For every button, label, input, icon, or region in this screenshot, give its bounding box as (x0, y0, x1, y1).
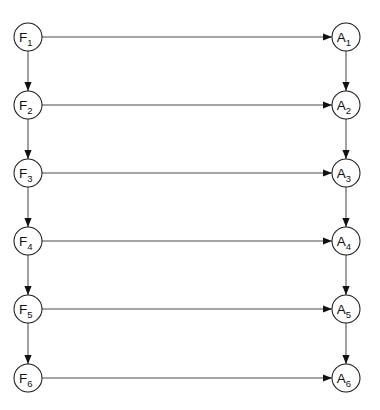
node-f1[interactable]: F1 (14, 23, 42, 51)
node-subscript-f3: 3 (27, 172, 32, 183)
node-subscript-a5: 5 (346, 308, 351, 319)
node-f2[interactable]: F2 (14, 91, 42, 119)
edge-layer (24, 33, 349, 381)
node-f4[interactable]: F4 (14, 227, 42, 255)
arrowhead-a1-to-a2 (342, 82, 349, 91)
node-a1[interactable]: A1 (332, 23, 360, 51)
node-f3[interactable]: F3 (14, 159, 42, 187)
arrowhead-f5-to-f6 (24, 355, 31, 364)
node-a2[interactable]: A2 (332, 91, 360, 119)
node-subscript-f1: 1 (27, 36, 32, 47)
arrowhead-f1-to-f2 (24, 82, 31, 91)
arrowhead-f2-to-f3 (24, 150, 31, 159)
arrowhead-f3-to-f4 (24, 218, 31, 227)
node-subscript-f6: 6 (27, 377, 32, 388)
node-a4[interactable]: A4 (332, 227, 360, 255)
node-subscript-a2: 2 (346, 104, 351, 115)
node-subscript-f5: 5 (27, 308, 32, 319)
arrowhead-a4-to-a5 (342, 286, 349, 295)
arrowhead-f1-to-a1 (323, 33, 332, 40)
node-f5[interactable]: F5 (14, 295, 42, 323)
diagram-canvas: F1F2F3F4F5F6A1A2A3A4A5A6 (0, 0, 380, 410)
arrowhead-f6-to-a6 (323, 374, 332, 381)
arrowhead-f4-to-a4 (323, 237, 332, 244)
arrowhead-f5-to-a5 (323, 305, 332, 312)
node-f6[interactable]: F6 (14, 364, 42, 392)
node-subscript-f4: 4 (27, 240, 32, 251)
arrowhead-a3-to-a4 (342, 218, 349, 227)
ladder-diagram-svg: F1F2F3F4F5F6A1A2A3A4A5A6 (0, 0, 380, 410)
arrowhead-a2-to-a3 (342, 150, 349, 159)
node-a5[interactable]: A5 (332, 295, 360, 323)
node-subscript-a6: 6 (346, 377, 351, 388)
node-subscript-f2: 2 (27, 104, 32, 115)
arrowhead-f4-to-f5 (24, 286, 31, 295)
arrowhead-f2-to-a2 (323, 101, 332, 108)
node-subscript-a1: 1 (346, 36, 351, 47)
node-subscript-a3: 3 (346, 172, 351, 183)
node-a3[interactable]: A3 (332, 159, 360, 187)
node-subscript-a4: 4 (346, 240, 351, 251)
node-a6[interactable]: A6 (332, 364, 360, 392)
node-layer: F1F2F3F4F5F6A1A2A3A4A5A6 (14, 23, 360, 392)
arrowhead-f3-to-a3 (323, 169, 332, 176)
arrowhead-a5-to-a6 (342, 355, 349, 364)
